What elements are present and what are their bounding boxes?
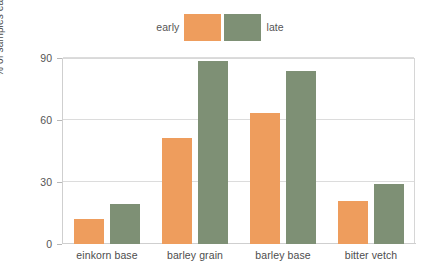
x-axis-label-barley-grain: barley grain — [167, 249, 223, 261]
x-axis-labels: einkorn basebarley grainbarley basebitte… — [63, 249, 415, 269]
bar-barley-base-early — [250, 113, 280, 244]
x-axis-label-einkorn-base: einkorn base — [76, 249, 137, 261]
bar-bitter-vetch-early — [338, 201, 368, 244]
bar-einkorn-base-early — [74, 219, 104, 244]
legend-swatch-early — [184, 14, 221, 41]
y-tick-label-90: 90 — [0, 52, 52, 64]
bar-bitter-vetch-late — [374, 184, 404, 244]
legend-item-early: early — [156, 14, 221, 41]
legend-label-late: late — [266, 21, 283, 33]
bar-barley-grain-early — [162, 138, 192, 244]
y-tick-label-30: 30 — [0, 176, 52, 188]
chart-legend: early late — [0, 10, 440, 44]
bar-einkorn-base-late — [110, 204, 140, 244]
legend-label-early: early — [156, 21, 179, 33]
y-tick-label-60: 60 — [0, 114, 52, 126]
bar-barley-base-late — [286, 71, 316, 244]
bar-barley-grain-late — [198, 61, 228, 244]
bars-layer — [63, 58, 415, 244]
y-axis-title: % of samples each is present in — [0, 0, 5, 76]
y-tick-mark-0 — [57, 244, 62, 245]
legend-swatch-late — [224, 14, 261, 41]
legend-item-late: late — [224, 14, 283, 41]
x-axis-label-barley-base: barley base — [255, 249, 310, 261]
x-axis-label-bitter-vetch: bitter vetch — [345, 249, 398, 261]
y-tick-label-0: 0 — [0, 238, 52, 250]
bar-chart: early late % of samples each is present … — [0, 0, 440, 277]
